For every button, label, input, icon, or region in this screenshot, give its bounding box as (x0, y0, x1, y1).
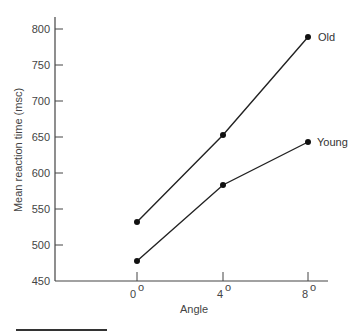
old-marker (220, 132, 226, 138)
y-axis-title: Mean reaction time (msc) (12, 88, 24, 212)
y-ticks (55, 29, 63, 245)
y-tick-label: 800 (32, 23, 50, 35)
series-old: Old (134, 31, 335, 225)
old-marker (134, 219, 140, 225)
young-marker (305, 139, 311, 145)
x-tick-label: 4 (217, 288, 223, 300)
y-tick-label: 750 (32, 59, 50, 71)
line-chart: 800 750 700 650 600 550 500 450 Mean rea… (0, 0, 362, 331)
young-marker (220, 182, 226, 188)
x-tick-label: 8 (302, 288, 308, 300)
y-tick-label: 700 (32, 95, 50, 107)
x-tick-label: 0 (130, 288, 136, 300)
degree-mark: o (138, 281, 144, 293)
x-axis-title: Angle (180, 303, 208, 315)
young-marker (134, 258, 140, 264)
y-tick-labels: 800 750 700 650 600 550 500 450 (32, 23, 50, 287)
x-ticks (137, 272, 308, 281)
series-young: Young (134, 136, 348, 264)
degree-mark: o (225, 281, 231, 293)
old-series-label: Old (318, 31, 335, 43)
y-tick-label: 550 (32, 203, 50, 215)
y-tick-label: 450 (32, 275, 50, 287)
y-tick-label: 500 (32, 239, 50, 251)
x-tick-labels: 0 o 4 o 8 o (130, 281, 316, 300)
young-series-label: Young (317, 136, 348, 148)
degree-mark: o (310, 281, 316, 293)
young-line (137, 142, 308, 261)
old-line (137, 37, 308, 222)
footnote-divider (16, 329, 107, 331)
old-marker (305, 34, 311, 40)
y-tick-label: 600 (32, 167, 50, 179)
y-tick-label: 650 (32, 131, 50, 143)
